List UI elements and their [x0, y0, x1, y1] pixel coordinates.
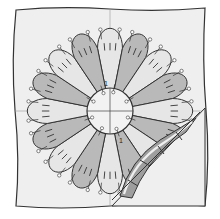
pin-head-icon: [44, 160, 47, 163]
pin-head-icon: [99, 28, 102, 31]
pin-head-icon: [37, 69, 40, 72]
pin-head-icon: [102, 92, 105, 95]
stitch-mark: [42, 105, 49, 106]
pin-head-icon: [86, 30, 89, 33]
pin-head-icon: [58, 174, 61, 177]
stitch-mark: [42, 116, 49, 117]
pin-head-icon: [187, 87, 190, 90]
stitch-mark: [170, 105, 177, 106]
pin-head-icon: [68, 181, 71, 184]
pin-head-icon: [125, 100, 128, 103]
pin-head-icon: [92, 100, 95, 103]
pin-head-icon: [44, 59, 47, 62]
pin-head-icon: [27, 100, 30, 103]
quilt-block-illustration: 1 1: [0, 0, 220, 219]
stitch-mark: [115, 43, 116, 50]
pin-head-icon: [91, 116, 94, 119]
pin-head-icon: [131, 30, 134, 33]
pin-head-icon: [68, 38, 71, 41]
pin-head-icon: [180, 69, 183, 72]
pin-head-icon: [126, 116, 129, 119]
pin-head-icon: [27, 119, 30, 122]
pin-head-icon: [115, 127, 118, 130]
stitch-mark: [104, 171, 105, 178]
dresden-plate-diagram: 1 1: [0, 0, 220, 219]
center-mark-label: 1: [104, 80, 108, 87]
pin-head-icon: [159, 45, 162, 48]
pin-head-icon: [100, 127, 103, 130]
stitch-mark: [115, 171, 116, 178]
pin-head-icon: [99, 191, 102, 194]
pin-head-icon: [58, 45, 61, 48]
pin-head-icon: [37, 149, 40, 152]
pin-head-icon: [86, 188, 89, 191]
pin-head-icon: [118, 28, 121, 31]
fold-mark-label: 1: [119, 137, 123, 144]
stitch-mark: [170, 116, 177, 117]
pin-head-icon: [112, 91, 115, 94]
pin-head-icon: [148, 38, 151, 41]
pin-head-icon: [29, 132, 32, 135]
pin-head-icon: [190, 100, 193, 103]
pin-head-icon: [173, 59, 176, 62]
stitch-mark: [104, 43, 105, 50]
pin-head-icon: [29, 87, 32, 90]
